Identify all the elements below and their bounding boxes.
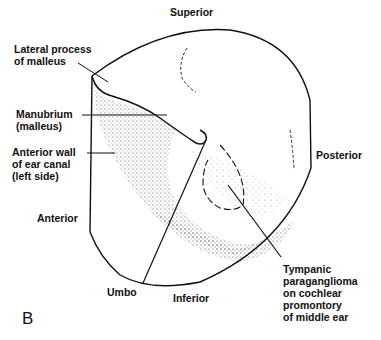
posterior-fold (181, 48, 196, 92)
label-anterior: Anterior (37, 212, 78, 224)
label-umbo: Umbo (107, 286, 137, 298)
label-anterior-wall: Anterior wall of ear canal (left side) (12, 146, 76, 182)
light-reflex-shading (190, 150, 290, 220)
tympanic-membrane-diagram: Superior Posterior Anterior Inferior Lat… (0, 0, 381, 340)
label-tympanic-paraganglioma: Tympanic paraganglioma on cochlear promo… (283, 263, 358, 323)
label-superior: Superior (170, 6, 213, 18)
label-manubrium: Manubrium (malleus) (16, 108, 73, 132)
panel-letter: B (22, 309, 33, 329)
label-lateral-process: Lateral process of malleus (14, 43, 92, 67)
label-posterior: Posterior (316, 149, 362, 161)
posterior-wall-dashes (290, 130, 294, 170)
label-inferior: Inferior (173, 292, 209, 304)
